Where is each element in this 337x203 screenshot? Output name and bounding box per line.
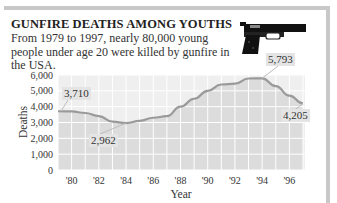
x-tick-label: '80 <box>66 175 78 186</box>
x-axis-ticks: '80'82'84'86'88'90'92'94'96 <box>66 175 296 186</box>
x-tick-label: '94 <box>256 175 268 186</box>
x-tick-label: '88 <box>175 175 187 186</box>
x-tick-label: '84 <box>120 175 132 186</box>
y-axis-ticks: 01,0002,0003,0004,0005,0006,000 <box>31 70 54 176</box>
y-axis-title: Deaths <box>17 106 29 138</box>
y-tick-label: 1,000 <box>31 149 54 160</box>
x-axis-title: Year <box>170 188 191 200</box>
callout-low-value: 2,962 <box>89 134 118 147</box>
x-tick-label: '92 <box>229 175 241 186</box>
y-tick-label: 2,000 <box>31 133 54 144</box>
y-tick-label: 4,000 <box>31 101 54 112</box>
line-chart: 01,0002,0003,0004,0005,0006,000 '80'82'8… <box>0 0 337 203</box>
y-tick-label: 3,000 <box>31 117 54 128</box>
callout-end-value: 4,205 <box>281 109 310 122</box>
y-tick-label: 6,000 <box>31 70 54 81</box>
x-tick-label: '90 <box>202 175 214 186</box>
callout-peak-value: 5,793 <box>266 53 295 66</box>
callout-start-value: 3,710 <box>62 87 91 100</box>
x-tick-label: '86 <box>147 175 159 186</box>
x-tick-label: '96 <box>283 175 295 186</box>
y-tick-label: 0 <box>48 165 53 176</box>
x-tick-label: '82 <box>93 175 105 186</box>
y-tick-label: 5,000 <box>31 85 54 96</box>
